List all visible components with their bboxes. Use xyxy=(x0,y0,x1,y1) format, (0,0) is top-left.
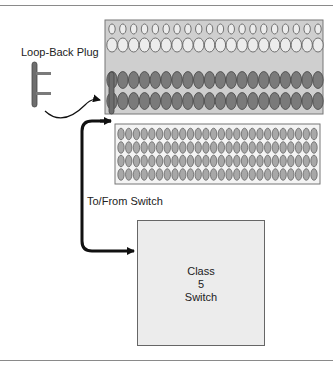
loopback-plug-icon xyxy=(32,62,51,107)
loopback-plug-label: Loop-Back Plug xyxy=(21,46,99,58)
switch-label: Class 5 Switch xyxy=(138,265,264,304)
class-5-switch-box: Class 5 Switch xyxy=(137,220,265,346)
diagram: Loop-Back Plug To/From Switch Class 5 Sw… xyxy=(0,0,333,369)
inserted-plug xyxy=(109,72,114,114)
plug-arrow xyxy=(45,99,100,118)
to-from-switch-label: To/From Switch xyxy=(87,195,163,207)
